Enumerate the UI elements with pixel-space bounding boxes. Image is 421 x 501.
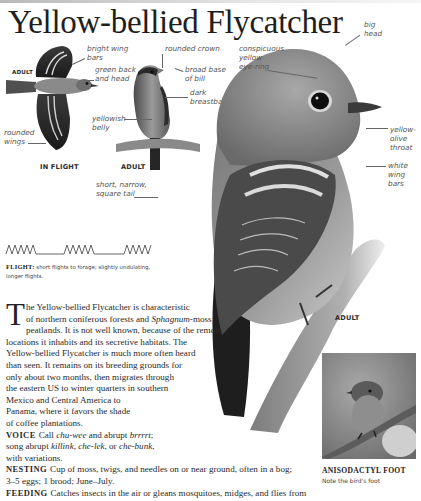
- label-yellowish-belly: yellowish belly: [92, 114, 126, 132]
- leader-line: [124, 119, 152, 120]
- drop-cap: T: [6, 304, 25, 326]
- nesting-line-2: 3–5 eggs; 1 brood; June–July.: [6, 476, 306, 488]
- leader-line: [84, 80, 94, 81]
- label-big-head: big head: [364, 20, 382, 38]
- nesting-line-1: NESTINGCup of moss, twigs, and needles o…: [6, 464, 306, 476]
- text-line: of northern coniferous forests and Sphag…: [6, 314, 306, 326]
- caption-in-flight: IN FLIGHT: [40, 163, 79, 171]
- leader-line: [134, 197, 158, 198]
- flight-bird-age-label: ADULT: [12, 69, 33, 75]
- text-line: Yellow-bellied Flycatcher is much more o…: [6, 348, 306, 360]
- label-white-wing-bars: white wing bars: [388, 161, 408, 188]
- flight-label: FLIGHT:: [6, 263, 35, 270]
- label-short-narrow-square-tail: short, narrow, square tail: [96, 180, 147, 198]
- voice-line-1: VOICECall chu-wee and abrupt brrrrt;: [6, 430, 306, 442]
- flight-pattern-diagram: [4, 242, 154, 256]
- flight-description: FLIGHT: short flights to forage; slightl…: [6, 262, 166, 281]
- text-line: of coffee plantations.: [6, 418, 306, 430]
- text-line: peatlands. It is not well known, because…: [6, 325, 306, 337]
- text-line: Mexico and Central America to: [6, 395, 306, 407]
- species-description: T he Yellow-bellied Flycatcher is charac…: [6, 302, 306, 499]
- caption-adult-small: ADULT: [121, 163, 146, 171]
- text-line: only about two months, then migrates thr…: [6, 372, 306, 384]
- nesting-label: NESTING: [6, 464, 47, 474]
- label-conspicuous-yellow-eye-ring: conspicuous yellow eye-ring: [239, 44, 284, 71]
- label-yellow-olive-throat: yellow- olive throat: [390, 125, 416, 152]
- text-line: than seen. It remains on its breeding gr…: [6, 360, 306, 372]
- feeding-label: FEEDING: [6, 488, 48, 498]
- foot-photo-image: [322, 353, 416, 459]
- text-line: locations it inhabits and its secretive …: [6, 337, 306, 349]
- top-rule: [0, 0, 421, 3]
- text-line: Panama, where it favors the shade: [6, 406, 306, 418]
- leader-line: [28, 143, 46, 144]
- voice-label: VOICE: [6, 430, 36, 440]
- text-line: the eastern US to winter quarters in sou…: [6, 383, 306, 395]
- caption-adult-large: ADULT: [335, 314, 360, 322]
- foot-photo-caption: ANISODACTYL FOOT: [322, 466, 406, 475]
- foot-photo: [322, 353, 416, 459]
- text-line: he Yellow-bellied Flycatcher is characte…: [6, 302, 306, 314]
- foot-photo-subcaption: Note the bird's foot: [322, 477, 380, 484]
- voice-line-3: with variations.: [6, 453, 306, 465]
- leader-line: [366, 128, 388, 129]
- voice-line-2: song abrupt killink, che-lek, or che-bun…: [6, 441, 306, 453]
- feeding-line-1: FEEDINGCatches insects in the air or gle…: [6, 488, 306, 500]
- leader-line: [366, 166, 386, 167]
